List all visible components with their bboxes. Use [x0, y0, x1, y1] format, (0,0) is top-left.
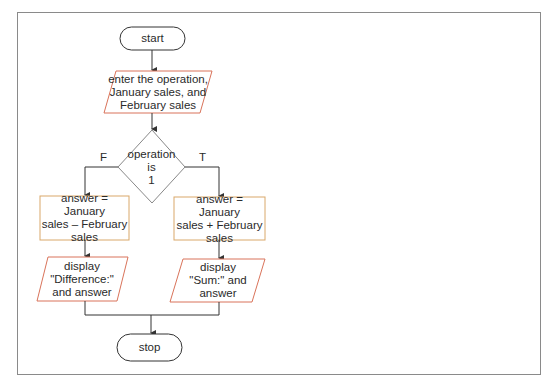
start-label: start [120, 27, 185, 50]
true-process-label: answer = January sales + February sales [174, 197, 265, 240]
true-branch-label: T [199, 151, 206, 163]
false-output-label: display "Difference:" and answer [42, 257, 122, 301]
false-process-label: answer = January sales – February sales [40, 196, 129, 240]
input-label: enter the operation, January sales, and … [106, 71, 210, 113]
decision-label: operation is 1 [118, 140, 185, 194]
true-output-label: display "Sum:" and answer [177, 259, 259, 302]
stop-label: stop [117, 334, 182, 361]
false-branch-label: F [100, 151, 107, 163]
